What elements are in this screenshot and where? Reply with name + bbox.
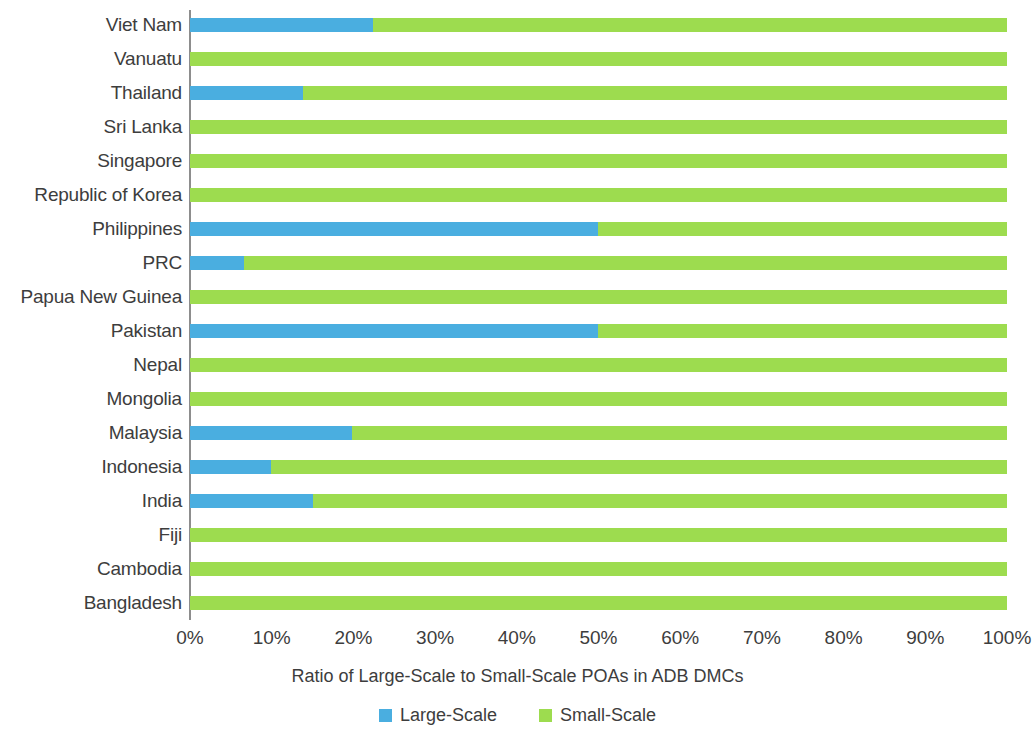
- category-label: Indonesia: [0, 450, 182, 484]
- bar-row: Nepal: [0, 348, 1035, 382]
- stacked-bar: [190, 86, 1007, 100]
- stacked-bar: [190, 290, 1007, 304]
- category-label: Pakistan: [0, 314, 182, 348]
- stacked-bar: [190, 596, 1007, 610]
- category-label: Mongolia: [0, 382, 182, 416]
- stacked-bar: [190, 18, 1007, 32]
- chart-legend: Large-ScaleSmall-Scale: [0, 706, 1035, 724]
- legend-label: Small-Scale: [560, 706, 656, 724]
- bar-row: Indonesia: [0, 450, 1035, 484]
- x-tick-label: 40%: [472, 622, 562, 654]
- stacked-bar: [190, 324, 1007, 338]
- x-axis-title: Ratio of Large-Scale to Small-Scale POAs…: [0, 666, 1035, 687]
- bar-segment-large-scale: [190, 18, 373, 32]
- category-label: Bangladesh: [0, 586, 182, 620]
- bar-row: Malaysia: [0, 416, 1035, 450]
- legend-swatch-icon: [539, 709, 552, 722]
- bar-row: Singapore: [0, 144, 1035, 178]
- bar-row: PRC: [0, 246, 1035, 280]
- stacked-bar: [190, 52, 1007, 66]
- legend-item[interactable]: Small-Scale: [539, 706, 656, 724]
- bar-segment-small-scale: [190, 528, 1007, 542]
- stacked-bar: [190, 222, 1007, 236]
- category-label: India: [0, 484, 182, 518]
- bar-row: Pakistan: [0, 314, 1035, 348]
- legend-label: Large-Scale: [400, 706, 497, 724]
- category-label: Papua New Guinea: [0, 280, 182, 314]
- bar-segment-small-scale: [598, 324, 1007, 338]
- bar-segment-small-scale: [190, 358, 1007, 372]
- x-tick-label: 10%: [227, 622, 317, 654]
- category-label: Thailand: [0, 76, 182, 110]
- bar-row: Cambodia: [0, 552, 1035, 586]
- bar-segment-small-scale: [190, 392, 1007, 406]
- category-label: Republic of Korea: [0, 178, 182, 212]
- bar-row: Philippines: [0, 212, 1035, 246]
- category-label: Malaysia: [0, 416, 182, 450]
- stacked-bar: [190, 528, 1007, 542]
- bar-segment-small-scale: [190, 290, 1007, 304]
- bar-row: India: [0, 484, 1035, 518]
- stacked-bar: [190, 426, 1007, 440]
- category-label: PRC: [0, 246, 182, 280]
- bar-row: Fiji: [0, 518, 1035, 552]
- category-label: Sri Lanka: [0, 110, 182, 144]
- legend-swatch-icon: [379, 709, 392, 722]
- bar-row: Bangladesh: [0, 586, 1035, 620]
- bar-segment-small-scale: [373, 18, 1007, 32]
- bar-row: Sri Lanka: [0, 110, 1035, 144]
- category-label: Philippines: [0, 212, 182, 246]
- stacked-bar: [190, 154, 1007, 168]
- bar-segment-large-scale: [190, 86, 303, 100]
- bar-row: Republic of Korea: [0, 178, 1035, 212]
- bar-segment-small-scale: [244, 256, 1007, 270]
- stacked-bar: [190, 562, 1007, 576]
- x-tick-label: 20%: [308, 622, 398, 654]
- bar-segment-small-scale: [598, 222, 1007, 236]
- x-tick-label: 70%: [717, 622, 807, 654]
- x-tick-label: 100%: [962, 622, 1035, 654]
- category-label: Vanuatu: [0, 42, 182, 76]
- bar-segment-small-scale: [190, 154, 1007, 168]
- stacked-bar: [190, 256, 1007, 270]
- bar-segment-large-scale: [190, 460, 271, 474]
- stacked-bar: [190, 392, 1007, 406]
- bar-row: Viet Nam: [0, 8, 1035, 42]
- bar-segment-small-scale: [352, 426, 1007, 440]
- x-tick-label: 0%: [145, 622, 235, 654]
- x-tick-label: 90%: [880, 622, 970, 654]
- bar-segment-small-scale: [190, 596, 1007, 610]
- bar-row: Vanuatu: [0, 42, 1035, 76]
- x-tick-label: 80%: [799, 622, 889, 654]
- stacked-bar: [190, 358, 1007, 372]
- bar-segment-large-scale: [190, 256, 244, 270]
- bar-chart: Viet NamVanuatuThailandSri LankaSingapor…: [0, 0, 1035, 743]
- bar-segment-large-scale: [190, 324, 598, 338]
- category-label: Viet Nam: [0, 8, 182, 42]
- bar-segment-small-scale: [313, 494, 1007, 508]
- bar-segment-small-scale: [190, 562, 1007, 576]
- bar-row: Thailand: [0, 76, 1035, 110]
- bar-segment-large-scale: [190, 494, 313, 508]
- bar-segment-small-scale: [190, 120, 1007, 134]
- bar-segment-small-scale: [303, 86, 1007, 100]
- legend-item[interactable]: Large-Scale: [379, 706, 497, 724]
- stacked-bar: [190, 460, 1007, 474]
- x-tick-label: 50%: [554, 622, 644, 654]
- bar-segment-large-scale: [190, 426, 352, 440]
- category-label: Singapore: [0, 144, 182, 178]
- stacked-bar: [190, 120, 1007, 134]
- category-label: Nepal: [0, 348, 182, 382]
- x-tick-label: 60%: [635, 622, 725, 654]
- bar-row: Papua New Guinea: [0, 280, 1035, 314]
- bar-segment-small-scale: [271, 460, 1007, 474]
- x-axis-tick-labels: 0%10%20%30%40%50%60%70%80%90%100%: [0, 622, 1035, 656]
- bar-segment-small-scale: [190, 52, 1007, 66]
- bar-segment-large-scale: [190, 222, 598, 236]
- category-label: Cambodia: [0, 552, 182, 586]
- category-label: Fiji: [0, 518, 182, 552]
- bar-row: Mongolia: [0, 382, 1035, 416]
- bar-segment-small-scale: [190, 188, 1007, 202]
- stacked-bar: [190, 494, 1007, 508]
- plot-area: Viet NamVanuatuThailandSri LankaSingapor…: [0, 0, 1035, 625]
